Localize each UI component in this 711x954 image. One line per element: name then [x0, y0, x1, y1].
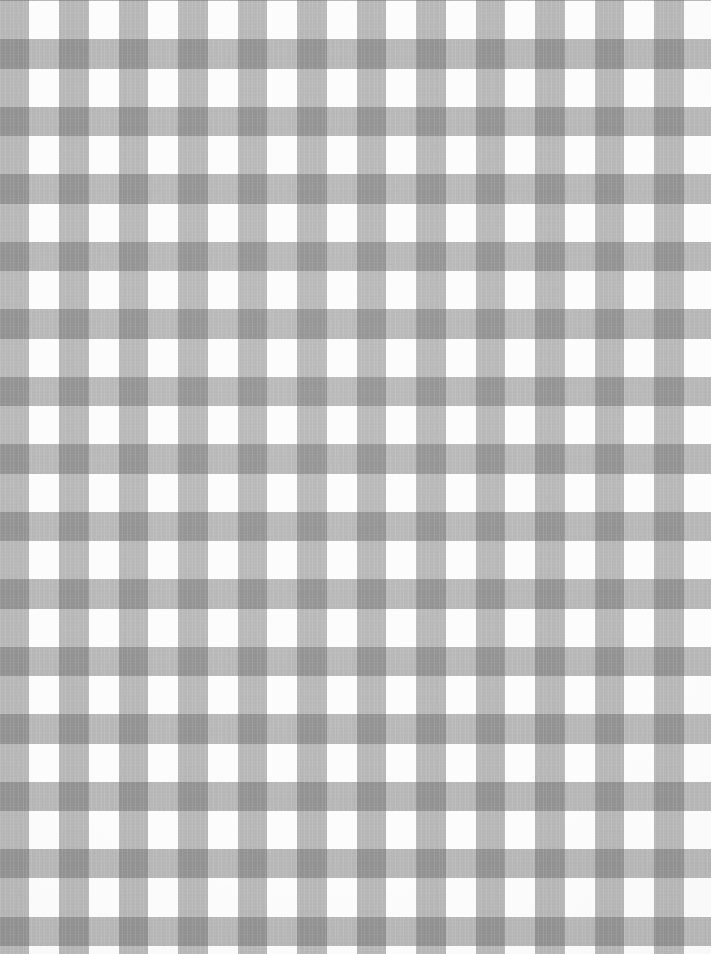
gingham-fabric-image	[0, 0, 711, 954]
fabric-weft-stripes-layer	[0, 0, 711, 954]
